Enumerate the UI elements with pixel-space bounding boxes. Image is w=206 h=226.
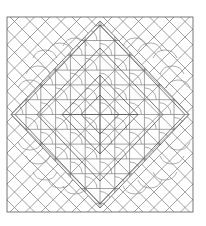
geometric-pattern-artwork [0,0,206,226]
